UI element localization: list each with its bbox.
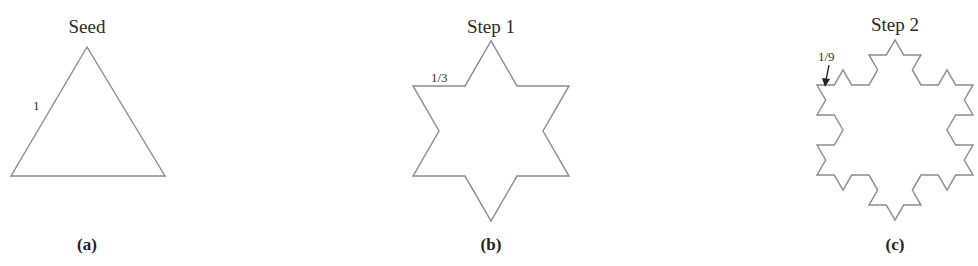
- panel-c: Step 2 1/9 (c): [817, 14, 973, 254]
- panel-b-caption: (b): [481, 235, 502, 254]
- panel-c-caption: (c): [886, 235, 905, 254]
- panel-a: Seed 1 (a): [11, 16, 165, 254]
- panel-c-edge-label: 1/9: [818, 49, 835, 64]
- panel-b-edge-label: 1/3: [431, 70, 448, 85]
- arrow-shaft: [826, 65, 829, 80]
- step1-star: [413, 41, 569, 221]
- koch-snowflake-figure: Seed 1 (a) Step 1 1/3 (b) Step 2 1/9 (c): [0, 0, 978, 266]
- panel-a-edge-label: 1: [33, 98, 40, 113]
- panel-b: Step 1 1/3 (b): [413, 16, 569, 254]
- panel-b-title: Step 1: [467, 16, 515, 37]
- panel-c-title: Step 2: [871, 14, 919, 35]
- edge-label-arrow-icon: [822, 65, 830, 87]
- panel-a-title: Seed: [69, 16, 106, 37]
- panel-a-caption: (a): [77, 235, 97, 254]
- step2-snowflake: [817, 40, 973, 220]
